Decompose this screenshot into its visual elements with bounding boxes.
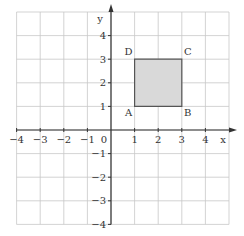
- coordinate-grid: −4−3−2−112344321−1−2−3−40xy ABCD: [0, 0, 244, 236]
- vertex-label-c: C: [184, 46, 192, 57]
- origin-label: 0: [101, 134, 107, 145]
- grid-lines: [17, 12, 229, 224]
- y-tick-label: −4: [91, 219, 106, 230]
- x-tick-label: −4: [9, 134, 24, 145]
- x-tick-label: −3: [33, 134, 48, 145]
- y-tick-label: 1: [100, 101, 106, 112]
- x-axis-label: x: [220, 134, 226, 145]
- y-axis-arrow-icon: [109, 4, 114, 12]
- x-tick-label: 2: [155, 134, 161, 145]
- vertex-label-a: A: [124, 107, 133, 118]
- vertex-label-b: B: [184, 107, 191, 118]
- y-tick-label: 3: [100, 54, 106, 65]
- y-axis-label: y: [96, 13, 103, 24]
- x-tick-label: 4: [202, 134, 208, 145]
- x-tick-label: 3: [179, 134, 185, 145]
- y-tick-label: 2: [100, 77, 106, 88]
- y-tick-label: 4: [100, 30, 106, 41]
- x-axis-arrow-icon: [229, 128, 237, 133]
- tick-labels: −4−3−2−112344321−1−2−3−40xy: [9, 13, 226, 230]
- x-tick-label: −2: [56, 134, 71, 145]
- x-tick-label: 1: [131, 134, 137, 145]
- vertex-label-d: D: [125, 46, 133, 57]
- y-tick-label: −1: [91, 148, 106, 159]
- y-tick-label: −3: [91, 195, 106, 206]
- x-tick-label: −1: [80, 134, 95, 145]
- y-tick-label: −2: [91, 172, 106, 183]
- square-abcd: [135, 59, 182, 106]
